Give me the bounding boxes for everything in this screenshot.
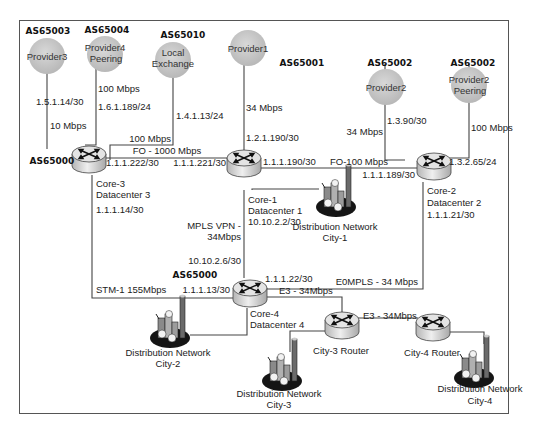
router-name: Core-3 [96,178,125,189]
router-name: Core-2 [427,185,456,196]
bandwidth-label: E3 - 34Mbps [279,285,333,296]
bandwidth-label: E3 - 34Mbps [363,310,417,321]
ip-label: 1.3.90/30 [387,115,427,126]
provider-label: Provider3 [27,51,68,62]
as-label: AS65001 [280,58,325,68]
bandwidth-label: 10 Mbps [50,120,87,131]
as-label: AS65003 [26,26,71,36]
provider-label: Local [162,47,185,58]
provider-label: Provider2 [449,74,490,85]
router-site: Datacenter 3 [96,189,150,200]
router-site: Datacenter 4 [250,319,304,330]
ip-label: 1.1.1.13/30 [182,284,230,295]
ip-label: 1.1.1.22/30 [265,273,313,284]
as-label: AS65010 [161,30,206,40]
ip-label: 1.2.1.190/30 [246,132,299,143]
provider-label: Provider4 [85,42,126,53]
router-ip: 1.1.1.21/30 [427,209,475,220]
router-site: Datacenter 1 [248,205,302,216]
bandwidth-label: 100 Mbps [98,83,140,94]
as-label: AS65002 [451,58,496,68]
bandwidth-label: E0MPLS - 34 Mbps [336,276,419,287]
bandwidth-label: STM-1 155Mbps [96,284,166,295]
dn-label: City-3 [267,399,292,410]
bandwidth-label: 100 Mbps [129,133,171,144]
provider-label: Provider2 [366,82,407,93]
as-label: AS65000 [30,156,75,166]
dn-label: Distribution Network [293,221,378,232]
router-name: City-4 Router [404,347,460,358]
router-name: City-3 Router [313,345,369,356]
dn-label: Distribution Network [438,383,523,394]
ip-label: 1.1.1.14/30 [96,204,144,215]
provider-label: Peering [454,85,487,96]
provider-label: Provider1 [228,43,269,54]
ip-label: 1.5.1.14/30 [36,96,84,107]
ip-label: 1.4.1.13/24 [176,110,224,121]
dn-label: City-4 [468,395,493,406]
bandwidth-label: 34Mbps [207,231,241,242]
ip-label: 1.3.2.65/24 [449,156,497,167]
ip-label: 1.1.1.221/30 [173,157,226,168]
dn-label: Distribution Network [237,388,322,399]
router-site: Datacenter 2 [427,197,481,208]
bandwidth-label: FO - 1000 Mbps [133,145,202,156]
dn-label: City-1 [323,232,348,243]
router-name: Core-1 [248,194,277,205]
ip-label: 1.1.1.222/30 [106,157,159,168]
bandwidth-label: 34 Mbps [347,126,384,137]
as-label: AS65000 [173,270,218,280]
bandwidth-label: FO-100 Mbps [330,156,388,167]
dn-label: Distribution Network [126,347,211,358]
network-diagram: Provider3 AS65003 Provider4 Peering AS65… [0,0,544,435]
bandwidth-label: 100 Mbps [471,122,513,133]
ip-label: 1.6.1.189/24 [98,101,151,112]
ip-label: 10.10.2.6/30 [188,255,241,266]
dn-label: City-2 [156,358,181,369]
provider-label: Peering [90,53,123,64]
router-name: Core-4 [250,308,279,319]
bandwidth-label: MPLS VPN - [187,220,241,231]
provider-label: Exchange [152,58,194,69]
ip-label: 1.1.1.190/30 [263,156,316,167]
as-label: AS65004 [85,25,130,35]
bandwidth-label: 34 Mbps [246,102,283,113]
ip-label: 1.1.1.189/30 [362,169,415,180]
as-label: AS65002 [368,58,413,68]
